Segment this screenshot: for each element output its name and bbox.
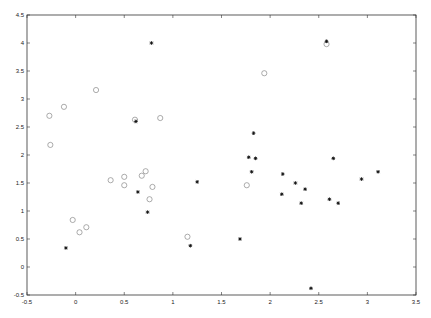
star-marker: [281, 172, 285, 176]
y-tick-label: 0.5: [16, 236, 25, 242]
x-tick-label: 0.5: [120, 299, 129, 305]
x-tick-label: 3.5: [412, 299, 421, 305]
star-marker: [294, 181, 298, 185]
y-tick-label: 2: [21, 152, 25, 158]
star-marker: [150, 41, 154, 45]
star-marker: [238, 237, 242, 241]
scatter-chart: -0.500.511.522.533.5 -0.500.511.522.533.…: [0, 0, 431, 318]
star-marker: [189, 244, 193, 248]
y-tick-label: 1: [21, 208, 25, 214]
y-tick-label: 4.5: [16, 12, 25, 18]
star-marker: [146, 210, 150, 214]
star-marker: [252, 131, 256, 135]
star-marker: [280, 192, 284, 196]
y-tick-label: 1.5: [16, 180, 25, 186]
star-marker: [309, 286, 313, 290]
x-tick-label: 2.5: [315, 299, 324, 305]
star-marker: [336, 201, 340, 205]
x-tick-label: 2: [268, 299, 272, 305]
star-marker: [64, 246, 68, 250]
y-tick-label: 0: [21, 264, 25, 270]
star-marker: [299, 201, 303, 205]
x-tick-label: 1.5: [217, 299, 226, 305]
star-marker: [328, 197, 332, 201]
x-tick-label: 1: [171, 299, 175, 305]
star-marker: [134, 120, 138, 124]
plot-area: [27, 15, 416, 295]
x-tick-label: 0: [74, 299, 78, 305]
y-tick-label: 3.5: [16, 68, 25, 74]
star-marker: [250, 170, 254, 174]
x-tick-label: 3: [366, 299, 370, 305]
star-marker: [325, 40, 329, 44]
star-marker: [254, 157, 258, 161]
y-tick-label: -0.5: [14, 292, 25, 298]
y-tick-label: 3: [21, 96, 25, 102]
star-marker: [195, 180, 199, 184]
star-marker: [360, 177, 364, 181]
y-tick-label: 2.5: [16, 124, 25, 130]
x-tick-label: -0.5: [22, 299, 33, 305]
star-marker: [376, 170, 380, 174]
star-marker: [303, 187, 307, 191]
y-tick-label: 4: [21, 40, 25, 46]
star-marker: [136, 190, 140, 194]
star-marker: [247, 155, 251, 159]
star-marker: [332, 157, 336, 161]
